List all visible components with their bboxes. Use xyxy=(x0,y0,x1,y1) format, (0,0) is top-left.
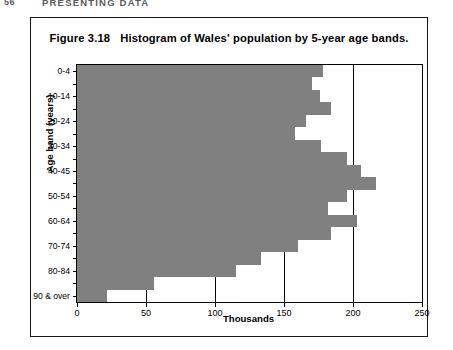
bar-row xyxy=(77,202,422,214)
y-axis-tick-label: 10-14 xyxy=(48,91,70,101)
bar-row: 0-4 xyxy=(77,65,422,77)
y-axis-tick-label: 90 & over xyxy=(33,291,70,301)
bar-row: 80-84 xyxy=(77,265,422,277)
y-axis-tick-label: 0-4 xyxy=(58,66,70,76)
histogram-bar xyxy=(77,77,312,89)
bar-row: 40-45 xyxy=(77,165,422,177)
y-axis-tick-label: 30-34 xyxy=(48,141,70,151)
bar-row xyxy=(77,227,422,239)
histogram-bar xyxy=(77,102,331,114)
histogram-bar xyxy=(77,190,347,202)
histogram-bar xyxy=(77,290,107,302)
bar-row xyxy=(77,77,422,89)
bar-row: 20-24 xyxy=(77,115,422,127)
y-axis-tick xyxy=(73,146,77,147)
x-axis-tick xyxy=(353,302,354,307)
histogram-bar xyxy=(77,115,306,127)
histogram-bar xyxy=(77,65,323,77)
y-axis-tick-label: 40-45 xyxy=(48,166,70,176)
histogram-bar xyxy=(77,90,320,102)
bar-row: 90 & over xyxy=(77,290,422,302)
y-axis-tick xyxy=(73,221,77,222)
histogram-bar xyxy=(77,240,298,252)
running-title: PRESENTING DATA xyxy=(42,0,149,8)
y-axis-tick xyxy=(73,183,77,184)
y-axis-tick-label: 80-84 xyxy=(48,266,70,276)
bar-row: 50-54 xyxy=(77,190,422,202)
plot-area: 0501001502002500-410-1420-2430-3440-4550… xyxy=(76,64,423,303)
page-number: 56 xyxy=(4,0,15,7)
x-axis-tick xyxy=(77,302,78,307)
x-axis-tick xyxy=(215,302,216,307)
y-axis-tick xyxy=(73,71,77,72)
bar-row xyxy=(77,102,422,114)
bar-row xyxy=(77,127,422,139)
histogram-bar xyxy=(77,252,261,264)
y-axis-tick xyxy=(73,171,77,172)
y-axis-tick xyxy=(73,271,77,272)
histogram-bar xyxy=(77,165,361,177)
y-axis-tick xyxy=(73,246,77,247)
histogram-bar xyxy=(77,265,236,277)
histogram-bar xyxy=(77,152,347,164)
bar-row xyxy=(77,177,422,189)
page-running-head: 56 PRESENTING DATA xyxy=(0,0,453,9)
y-axis-tick xyxy=(73,283,77,284)
histogram-bar xyxy=(77,202,328,214)
y-axis-tick xyxy=(73,258,77,259)
y-axis-tick xyxy=(73,96,77,97)
y-axis-tick-label: 50-54 xyxy=(48,191,70,201)
histogram-bar xyxy=(77,227,331,239)
y-axis-tick xyxy=(73,109,77,110)
histogram-bar xyxy=(77,215,357,227)
bar-row xyxy=(77,277,422,289)
y-axis-tick xyxy=(73,134,77,135)
y-axis-tick xyxy=(73,296,77,297)
figure-box: Figure 3.18Histogram of Wales' populatio… xyxy=(30,17,428,337)
bar-row xyxy=(77,252,422,264)
bar-row: 30-34 xyxy=(77,140,422,152)
x-axis-tick xyxy=(422,302,423,307)
y-axis-tick xyxy=(73,84,77,85)
bar-row xyxy=(77,152,422,164)
y-axis-title: Age band (years) xyxy=(44,95,55,173)
y-axis-tick-label: 20-24 xyxy=(48,116,70,126)
histogram-bar xyxy=(77,277,154,289)
histogram-bar xyxy=(77,140,321,152)
y-axis-tick xyxy=(73,159,77,160)
y-axis-tick xyxy=(73,208,77,209)
y-axis-tick xyxy=(73,121,77,122)
x-axis-title: Thousands xyxy=(76,313,421,324)
y-axis-tick xyxy=(73,196,77,197)
x-axis-tick xyxy=(146,302,147,307)
histogram-bar xyxy=(77,127,295,139)
bar-row: 60-64 xyxy=(77,215,422,227)
y-axis-tick-label: 60-64 xyxy=(48,216,70,226)
bar-row: 10-14 xyxy=(77,90,422,102)
bar-row: 70-74 xyxy=(77,240,422,252)
y-axis-tick-label: 70-74 xyxy=(48,241,70,251)
population-histogram-chart: Age band (years) 0501001502002500-410-14… xyxy=(31,18,429,338)
y-axis-tick xyxy=(73,233,77,234)
histogram-bar xyxy=(77,177,376,189)
x-axis-tick xyxy=(284,302,285,307)
